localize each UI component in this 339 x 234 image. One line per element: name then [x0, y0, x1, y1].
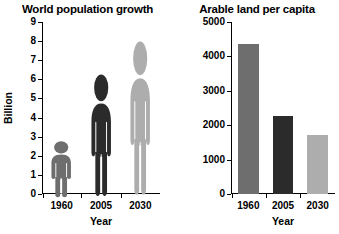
- y-tick: [38, 137, 42, 138]
- pictogram-person: [128, 41, 152, 198]
- y-tick: [227, 22, 231, 23]
- y-tick: [227, 125, 231, 126]
- y-tick-label: 4: [30, 113, 36, 123]
- x-tick-label: 1960: [51, 201, 73, 211]
- y-tick-label: 3000: [203, 86, 225, 96]
- y-tick: [38, 22, 42, 23]
- y-tick: [38, 175, 42, 176]
- bar: [307, 135, 328, 194]
- y-tick-label: 1: [30, 170, 36, 180]
- chart-title-left: World population growth: [0, 3, 175, 15]
- y-tick: [38, 79, 42, 80]
- pictogram-person: [49, 141, 73, 198]
- y-tick-label: 9: [30, 17, 36, 27]
- y-tick-label: 7: [30, 55, 36, 65]
- y-axis-right: [231, 22, 232, 194]
- pictogram-person: [89, 74, 113, 198]
- x-tick: [81, 194, 82, 198]
- y-tick: [227, 56, 231, 57]
- y-tick: [38, 118, 42, 119]
- x-tick-label: 2030: [307, 201, 329, 211]
- bar: [273, 116, 294, 194]
- y-tick-label: 5000: [203, 17, 225, 27]
- y-tick: [38, 194, 42, 195]
- y-tick-label: 3: [30, 132, 36, 142]
- x-tick-label: 2005: [90, 201, 112, 211]
- x-axis-label-left: Year: [42, 215, 160, 227]
- x-tick-label: 2005: [272, 201, 294, 211]
- x-tick: [300, 194, 301, 198]
- figure-panel: World population growth 0123456789196020…: [0, 0, 339, 234]
- x-axis-label-right: Year: [231, 215, 335, 227]
- chart-arable-land-per-capita: Arable land per capita 01000200030004000…: [175, 0, 339, 234]
- y-tick-label: 6: [30, 74, 36, 84]
- plot-area-right: 010002000300040005000196020052030: [231, 22, 335, 194]
- y-tick-label: 2000: [203, 120, 225, 130]
- y-tick: [38, 60, 42, 61]
- x-tick-label: 2030: [129, 201, 151, 211]
- chart-title-right: Arable land per capita: [175, 3, 339, 15]
- y-tick-label: 1000: [203, 155, 225, 165]
- y-tick: [227, 160, 231, 161]
- x-tick: [266, 194, 267, 198]
- bar: [238, 44, 259, 194]
- chart-world-population-growth: World population growth 0123456789196020…: [0, 0, 175, 234]
- y-tick: [38, 156, 42, 157]
- y-axis-label-left: Billion: [2, 92, 14, 124]
- y-tick: [227, 194, 231, 195]
- x-tick: [43, 194, 44, 198]
- y-tick: [38, 98, 42, 99]
- y-tick-label: 0: [30, 189, 36, 199]
- x-tick-label: 1960: [237, 201, 259, 211]
- y-tick: [227, 91, 231, 92]
- y-tick-label: 4000: [203, 51, 225, 61]
- y-tick-label: 2: [30, 151, 36, 161]
- y-tick-label: 0: [219, 189, 225, 199]
- x-tick: [232, 194, 233, 198]
- y-tick: [38, 41, 42, 42]
- y-tick-label: 5: [30, 93, 36, 103]
- y-axis-left: [42, 22, 43, 194]
- y-tick-label: 8: [30, 36, 36, 46]
- x-tick: [121, 194, 122, 198]
- plot-area-left: 0123456789196020052030: [42, 22, 160, 194]
